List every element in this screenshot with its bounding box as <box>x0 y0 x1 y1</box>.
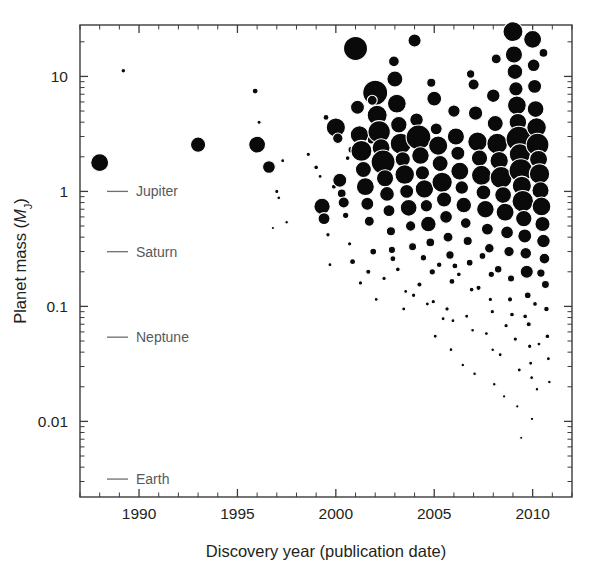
data-point <box>545 334 550 339</box>
data-point <box>492 383 496 387</box>
data-point <box>271 226 274 229</box>
data-point <box>495 187 512 204</box>
data-point <box>275 189 279 193</box>
data-point <box>387 94 406 113</box>
data-point <box>285 220 289 224</box>
data-point <box>494 266 502 274</box>
data-point <box>451 319 455 323</box>
data-point <box>430 123 442 135</box>
data-point <box>524 292 531 299</box>
data-point <box>366 269 371 274</box>
data-point <box>526 322 531 327</box>
data-point <box>455 181 469 195</box>
data-point <box>504 323 508 327</box>
data-point <box>318 213 330 225</box>
data-point <box>468 106 482 120</box>
y-tick-label: 10 <box>51 68 69 85</box>
data-point <box>400 199 417 216</box>
data-point <box>523 314 528 319</box>
data-point <box>449 278 455 284</box>
data-point <box>504 246 514 256</box>
data-point <box>306 152 310 156</box>
data-point <box>535 216 550 231</box>
x-tick-label: 2005 <box>417 505 451 522</box>
data-point <box>367 95 377 105</box>
data-point <box>451 162 469 180</box>
data-point <box>374 297 378 301</box>
data-point <box>527 59 540 72</box>
data-point <box>501 226 514 239</box>
data-point <box>387 71 403 87</box>
data-point <box>468 132 488 152</box>
data-point <box>484 332 488 336</box>
data-point <box>408 34 421 47</box>
data-point <box>463 236 472 245</box>
data-point <box>465 314 469 318</box>
data-point <box>263 161 276 174</box>
reference-label-jupiter: Jupiter <box>136 183 178 199</box>
data-point <box>361 197 374 210</box>
data-point <box>364 216 374 226</box>
data-point <box>528 79 542 93</box>
data-point <box>479 252 486 259</box>
data-point <box>510 312 515 317</box>
reference-label-earth: Earth <box>136 471 169 487</box>
data-point <box>533 302 538 307</box>
data-point <box>436 192 451 207</box>
data-point <box>530 376 534 380</box>
data-point <box>537 342 541 346</box>
data-point <box>466 259 473 266</box>
data-point <box>281 159 285 163</box>
data-point <box>520 265 533 278</box>
data-point <box>488 297 492 301</box>
data-points-layer <box>91 22 551 440</box>
data-point <box>532 182 549 199</box>
data-point <box>376 170 393 187</box>
data-point <box>347 242 351 246</box>
data-point <box>445 307 449 311</box>
data-point <box>513 337 517 341</box>
data-point <box>406 125 431 150</box>
data-point <box>481 223 493 235</box>
data-point <box>471 328 475 332</box>
x-tick-label: 2010 <box>515 505 550 522</box>
data-point <box>382 276 386 280</box>
data-point <box>490 309 494 313</box>
data-point <box>350 259 356 265</box>
data-point <box>544 306 550 312</box>
data-point <box>508 96 527 115</box>
data-point <box>496 203 514 221</box>
data-point <box>355 162 371 178</box>
data-point <box>257 120 261 124</box>
data-point <box>415 180 433 198</box>
data-point <box>426 238 435 247</box>
data-point <box>509 82 523 96</box>
data-point <box>333 173 347 187</box>
data-point <box>507 297 512 302</box>
data-point <box>338 197 349 208</box>
data-point <box>487 133 508 154</box>
data-point <box>461 363 465 367</box>
y-tick-label: 1 <box>59 183 68 200</box>
data-point <box>505 46 522 63</box>
data-point <box>425 302 429 306</box>
data-point <box>395 165 415 185</box>
data-point <box>527 101 544 118</box>
data-point <box>410 113 424 127</box>
data-point <box>344 36 368 60</box>
data-point <box>380 187 395 202</box>
data-point <box>527 344 531 348</box>
data-point <box>333 133 343 143</box>
data-point <box>512 191 534 213</box>
data-point <box>537 269 545 277</box>
data-point <box>402 307 406 311</box>
data-point <box>520 436 523 439</box>
data-point <box>491 54 501 64</box>
data-point <box>529 164 549 184</box>
data-point <box>386 227 395 236</box>
data-point <box>449 348 453 352</box>
data-point <box>539 253 550 264</box>
data-point <box>520 247 532 259</box>
data-point <box>314 165 319 170</box>
reference-markers-layer: JupiterSaturnNeptuneEarth <box>107 183 189 487</box>
